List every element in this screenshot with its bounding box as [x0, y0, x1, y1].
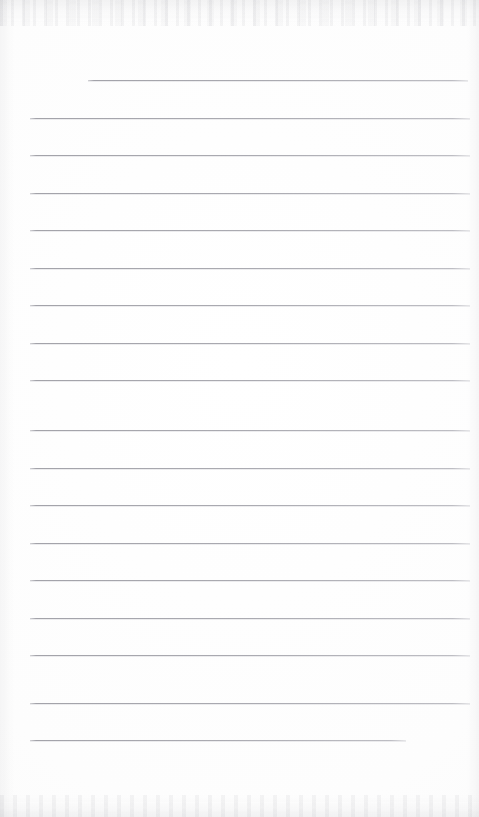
rule-line-13: [30, 543, 470, 544]
rule-line-2: [30, 118, 470, 119]
rule-line-7: [30, 305, 470, 306]
rule-line-11: [30, 468, 470, 469]
rule-line-14: [30, 580, 470, 581]
rule-line-18-short: [30, 740, 406, 741]
rule-line-4: [30, 193, 470, 194]
rule-line-12: [30, 505, 470, 506]
scanned-notepaper-page: [0, 0, 479, 817]
scan-edge-right: [467, 0, 479, 817]
rule-line-1-indented: [88, 80, 468, 81]
scan-edge-left: [0, 0, 14, 817]
rule-line-17: [30, 703, 470, 704]
rule-line-16: [30, 655, 470, 656]
rule-line-3: [30, 155, 470, 156]
rule-line-6: [30, 268, 470, 269]
rule-line-15: [30, 618, 470, 619]
rule-line-9: [30, 380, 470, 381]
scan-edge-top: [0, 0, 479, 26]
rule-line-10: [30, 430, 470, 431]
rule-line-8: [30, 343, 470, 344]
ruled-lines-group: [0, 0, 479, 817]
rule-line-5: [30, 230, 470, 231]
scan-edge-bottom: [0, 795, 479, 817]
